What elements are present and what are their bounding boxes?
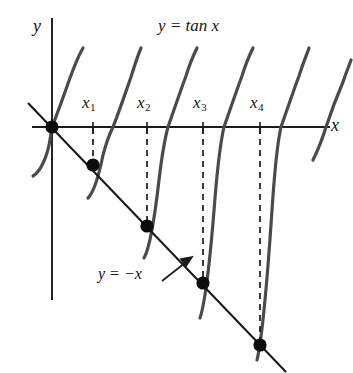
x-tick-label-3-subscript: 3 — [201, 101, 207, 113]
tan-branch-5-partial — [313, 60, 351, 160]
tan-branch-4 — [257, 48, 309, 360]
line-y-equals-minus-x — [28, 103, 286, 372]
tangent-line-intersection-plot — [0, 0, 353, 373]
curve-equation-label: y = tan x — [158, 16, 219, 36]
x-tick-label-4: x4 — [250, 93, 264, 113]
x-tick-label-1: x1 — [82, 93, 96, 113]
tan-branch-3 — [200, 48, 253, 318]
x-tick-label-2-subscript: 2 — [145, 101, 151, 113]
origin-point — [45, 120, 58, 133]
tan-branch-0-lower — [33, 127, 52, 176]
intersection-point-x3 — [196, 276, 209, 289]
y-axis-label: y — [33, 16, 41, 37]
intersection-point-x2 — [140, 219, 153, 232]
x-tick-label-3-base: x — [193, 93, 201, 112]
x-tick-label-3: x3 — [193, 93, 207, 113]
x-tick-label-1-subscript: 1 — [90, 101, 96, 113]
x-tick-label-2-base: x — [137, 93, 145, 112]
x-axis-label: x — [331, 115, 339, 136]
asymptote-dashed-lines — [93, 128, 260, 348]
tan-curve-group — [33, 48, 351, 360]
x-tick-label-1-base: x — [82, 93, 90, 112]
tan-branch-1 — [88, 48, 141, 198]
x-tick-label-4-base: x — [250, 93, 258, 112]
intersection-point-x4 — [253, 338, 266, 351]
figure-container: y = tan x y x y = −x x1 x2 x3 x4 — [0, 0, 353, 373]
intersection-point-x1 — [86, 158, 99, 171]
x-tick-label-2: x2 — [137, 93, 151, 113]
x-tick-label-4-subscript: 4 — [258, 101, 264, 113]
tan-branch-0-upper — [52, 48, 83, 127]
x-axis-ticks — [93, 122, 260, 134]
line-equation-label: y = −x — [98, 265, 142, 283]
